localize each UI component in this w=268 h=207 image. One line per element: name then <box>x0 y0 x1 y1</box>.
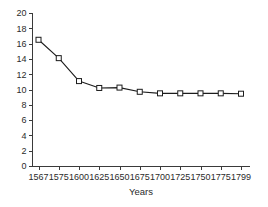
data-point-marker <box>97 85 102 90</box>
x-axis-tick-labels: 1567157516001625165016751700172517501775… <box>28 172 251 182</box>
y-tick-label: 14 <box>16 54 26 64</box>
data-point-marker <box>77 79 82 84</box>
x-tick-label: 1625 <box>89 172 109 182</box>
data-series-line <box>39 40 242 94</box>
x-tick-label: 1675 <box>130 172 150 182</box>
chart-canvas: 02468101214161820 1567157516001625165016… <box>0 0 268 207</box>
data-point-marker <box>178 91 183 96</box>
x-tick-label: 1650 <box>109 172 129 182</box>
data-point-marker <box>218 91 223 96</box>
y-tick-label: 8 <box>21 100 26 110</box>
data-point-marker <box>117 85 122 90</box>
data-point-marker <box>239 91 244 96</box>
plot-area: 02468101214161820 1567157516001625165016… <box>16 8 251 181</box>
data-point-markers <box>36 37 244 96</box>
y-tick-label: 0 <box>21 161 26 171</box>
x-tick-label: 1775 <box>211 172 231 182</box>
x-tick-label: 1700 <box>150 172 170 182</box>
y-tick-label: 16 <box>16 39 26 49</box>
y-tick-label: 12 <box>16 70 26 80</box>
data-point-marker <box>137 89 142 94</box>
x-tick-label: 1799 <box>231 172 251 182</box>
x-axis-title: Years <box>129 186 153 197</box>
line-chart: 02468101214161820 1567157516001625165016… <box>0 0 268 207</box>
y-tick-label: 4 <box>21 131 26 141</box>
x-tick-label: 1600 <box>69 172 89 182</box>
y-axis-ticks <box>29 14 33 167</box>
y-tick-label: 18 <box>16 24 26 34</box>
x-tick-label: 1725 <box>170 172 190 182</box>
data-point-marker <box>198 91 203 96</box>
y-tick-label: 2 <box>21 146 26 156</box>
x-tick-label: 1567 <box>28 172 48 182</box>
data-point-marker <box>158 91 163 96</box>
data-point-marker <box>36 37 41 42</box>
data-point-marker <box>56 56 61 61</box>
y-tick-label: 20 <box>16 8 26 18</box>
y-axis-tick-labels: 02468101214161820 <box>16 8 26 171</box>
y-tick-label: 10 <box>16 85 26 95</box>
x-tick-label: 1750 <box>190 172 210 182</box>
y-tick-label: 6 <box>21 115 26 125</box>
x-tick-label: 1575 <box>49 172 69 182</box>
